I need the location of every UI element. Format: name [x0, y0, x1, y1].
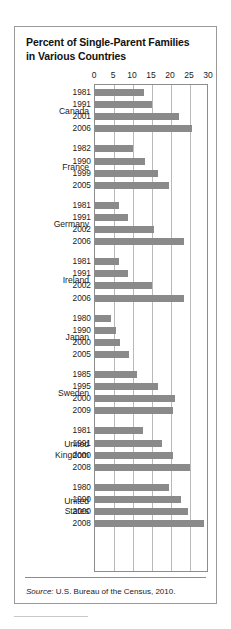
source-divider	[25, 577, 206, 578]
row-year-label: 1981	[55, 87, 91, 97]
chart-row: 2006	[15, 124, 216, 134]
bar-ireland-1981	[95, 258, 119, 265]
x-axis-tick-labels: 051015202530	[94, 70, 208, 83]
source-note: Source: U.S. Bureau of the Census, 2010.	[26, 587, 175, 596]
row-year-label: 1980	[55, 313, 91, 323]
bar-france-1982	[95, 145, 133, 152]
chart-title-line-1: Percent of Single-Parent Families	[26, 36, 212, 50]
country-label-france: France	[17, 162, 89, 173]
row-year-label: 2008	[55, 462, 91, 472]
row-year-label: 1985	[55, 369, 91, 379]
row-year-label: 1981	[55, 256, 91, 266]
country-label-japan: Japan	[17, 332, 89, 343]
bar-germany-2006	[95, 238, 184, 245]
country-label-canada: Canada	[17, 106, 89, 117]
country-label-ireland: Ireland	[17, 275, 89, 286]
country-label-germany: Germany	[17, 219, 89, 230]
row-year-label: 1981	[55, 200, 91, 210]
country-label-line: Japan	[17, 332, 89, 343]
bar-ireland-1991	[95, 270, 128, 277]
bar-japan-1980	[95, 315, 111, 322]
bar-ireland-2002	[95, 282, 152, 289]
bar-japan-2005	[95, 351, 129, 358]
bar-united-states-1980	[95, 484, 169, 491]
country-label-line: United	[17, 439, 89, 450]
row-year-label: 2009	[55, 405, 91, 415]
bar-united-states-1990	[95, 496, 181, 503]
bar-united-kingdom-2000	[95, 452, 173, 459]
country-label-united-states: UnitedStates	[17, 496, 89, 517]
bar-united-kingdom-2008	[95, 464, 190, 471]
chart-title: Percent of Single-Parent Families in Var…	[26, 36, 212, 63]
bar-sweden-2009	[95, 407, 173, 414]
bar-germany-2002	[95, 226, 154, 233]
row-year-label: 2008	[55, 518, 91, 528]
chart-rows: 1981199120012006Canada1982199019992005Fr…	[15, 84, 216, 572]
bar-united-kingdom-1991	[95, 440, 162, 447]
row-year-label: 1980	[55, 482, 91, 492]
bar-france-1999	[95, 170, 158, 177]
bar-sweden-2000	[95, 395, 175, 402]
country-label-line: Canada	[17, 106, 89, 117]
x-tick-label-0: 0	[92, 70, 97, 80]
bar-sweden-1995	[95, 383, 158, 390]
chart-row: 2006	[15, 294, 216, 304]
row-year-label: 2006	[55, 236, 91, 246]
chart-row: 2008	[15, 463, 216, 473]
chart-row: 1981	[15, 426, 216, 436]
chart-row: 1980	[15, 483, 216, 493]
chart-row: 1982	[15, 144, 216, 154]
row-year-label: 1982	[55, 143, 91, 153]
bar-united-states-2000	[95, 508, 188, 515]
bar-united-kingdom-1981	[95, 427, 143, 434]
country-label-line: Ireland	[17, 275, 89, 286]
caption-rule	[14, 616, 88, 617]
bar-canada-1991	[95, 101, 152, 108]
chart-title-line-2: in Various Countries	[26, 50, 212, 64]
country-label-line: States	[17, 506, 89, 517]
bar-japan-2000	[95, 339, 120, 346]
country-label-line: France	[17, 162, 89, 173]
country-label-line: United	[17, 496, 89, 507]
x-tick-label-25: 25	[184, 70, 193, 80]
country-label-line: Sweden	[17, 388, 89, 399]
chart-row: 2009	[15, 406, 216, 416]
row-year-label: 2006	[55, 293, 91, 303]
bar-france-1990	[95, 158, 145, 165]
row-year-label: 2006	[55, 123, 91, 133]
x-tick-label-10: 10	[127, 70, 136, 80]
bar-france-2005	[95, 182, 169, 189]
chart-row: 1985	[15, 370, 216, 380]
source-value: U.S. Bureau of the Census, 2010.	[54, 587, 176, 596]
x-tick-label-30: 30	[203, 70, 212, 80]
country-label-sweden: Sweden	[17, 388, 89, 399]
chart-row: 2008	[15, 519, 216, 529]
country-label-line: Kingdom	[17, 450, 89, 461]
bar-japan-1990	[95, 327, 116, 334]
source-label: Source:	[26, 587, 54, 596]
figure-frame: Percent of Single-Parent Families in Var…	[14, 26, 217, 604]
chart-row: 2005	[15, 181, 216, 191]
x-tick-label-5: 5	[111, 70, 116, 80]
chart-row: 2005	[15, 350, 216, 360]
bar-germany-1981	[95, 202, 119, 209]
chart-row: 1981	[15, 257, 216, 267]
bar-canada-2001	[95, 113, 179, 120]
row-year-label: 2005	[55, 349, 91, 359]
bar-united-states-2008	[95, 520, 204, 527]
bar-ireland-2006	[95, 295, 184, 302]
row-year-label: 1981	[55, 425, 91, 435]
country-label-united-kingdom: UnitedKingdom	[17, 439, 89, 460]
bar-canada-1981	[95, 89, 144, 96]
country-label-line: Germany	[17, 219, 89, 230]
bar-germany-1991	[95, 214, 128, 221]
chart-row: 1981	[15, 201, 216, 211]
chart-row: 1980	[15, 314, 216, 324]
bar-sweden-1985	[95, 371, 137, 378]
x-tick-label-20: 20	[165, 70, 174, 80]
bar-canada-2006	[95, 125, 192, 132]
chart-row: 1981	[15, 88, 216, 98]
row-year-label: 2005	[55, 180, 91, 190]
x-tick-label-15: 15	[146, 70, 155, 80]
chart-row: 2006	[15, 237, 216, 247]
